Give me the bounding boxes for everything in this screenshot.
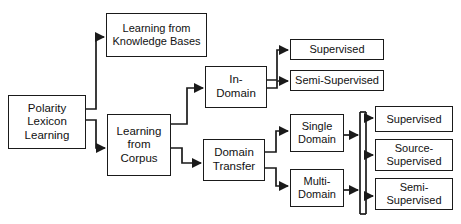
node-label: Polarity Lexicon Learning xyxy=(23,102,72,143)
node-label: Source- Supervised xyxy=(384,142,443,168)
edge-domain-transfer-to-multi-domain xyxy=(265,168,288,186)
edge-corpus-to-in-domain xyxy=(171,88,203,124)
node-label: Semi- Supervised xyxy=(384,181,443,207)
node-label: In- Domain xyxy=(214,73,258,100)
node-label: Learning from Corpus xyxy=(115,125,164,166)
edge-domain-transfer-to-single-domain xyxy=(265,131,288,152)
node-supervised-transfer[interactable]: Supervised xyxy=(375,106,453,132)
node-in-domain[interactable]: In- Domain xyxy=(205,66,267,108)
bus-bar xyxy=(360,112,366,214)
node-label: Semi-Supervised xyxy=(293,74,381,87)
node-label: Supervised xyxy=(384,113,443,126)
edge-in-domain-to-semi-supervised xyxy=(267,81,288,88)
node-polarity-lexicon-learning[interactable]: Polarity Lexicon Learning xyxy=(8,95,86,149)
node-label: Multi- Domain xyxy=(296,175,338,201)
edge-in-domain-to-supervised xyxy=(267,50,288,80)
edge-root-to-corpus xyxy=(86,120,105,148)
node-label: Domain Transfer xyxy=(211,146,257,173)
node-learning-from-corpus[interactable]: Learning from Corpus xyxy=(107,114,171,176)
edge-root-to-knowledge-bases xyxy=(86,37,104,109)
node-supervised-in-domain[interactable]: Supervised xyxy=(290,39,384,60)
node-single-domain[interactable]: Single Domain xyxy=(290,114,344,152)
node-label: Supervised xyxy=(307,43,366,56)
node-semi-supervised-in-domain[interactable]: Semi-Supervised xyxy=(290,70,384,91)
node-learning-from-knowledge-bases[interactable]: Learning from Knowledge Bases xyxy=(106,13,207,57)
edge-corpus-to-domain-transfer xyxy=(171,148,201,163)
diagram-canvas: Polarity Lexicon Learning Learning from … xyxy=(0,0,461,224)
node-domain-transfer[interactable]: Domain Transfer xyxy=(203,139,265,181)
node-source-supervised[interactable]: Source- Supervised xyxy=(375,139,453,171)
node-label: Learning from Knowledge Bases xyxy=(110,22,202,48)
node-semi-supervised-transfer[interactable]: Semi- Supervised xyxy=(375,178,453,210)
node-multi-domain[interactable]: Multi- Domain xyxy=(290,169,344,207)
node-label: Single Domain xyxy=(296,120,338,146)
